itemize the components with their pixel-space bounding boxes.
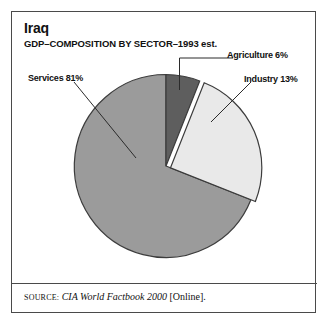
slice-label-industry: Industry 13%: [244, 74, 298, 84]
figure-panel: Iraq GDP–COMPOSITION BY SECTOR–1993 est.…: [11, 11, 316, 313]
source-divider: [12, 283, 317, 284]
slice-label-services: Services 81%: [28, 73, 83, 83]
slice-label-agriculture: Agriculture 6%: [227, 50, 288, 60]
source-suffix: [Online].: [169, 291, 205, 302]
source-title: CIA World Factbook 2000: [62, 291, 167, 302]
source-prefix: SOURCE:: [24, 293, 59, 302]
source-note: SOURCE: CIA World Factbook 2000 [Online]…: [24, 291, 206, 302]
